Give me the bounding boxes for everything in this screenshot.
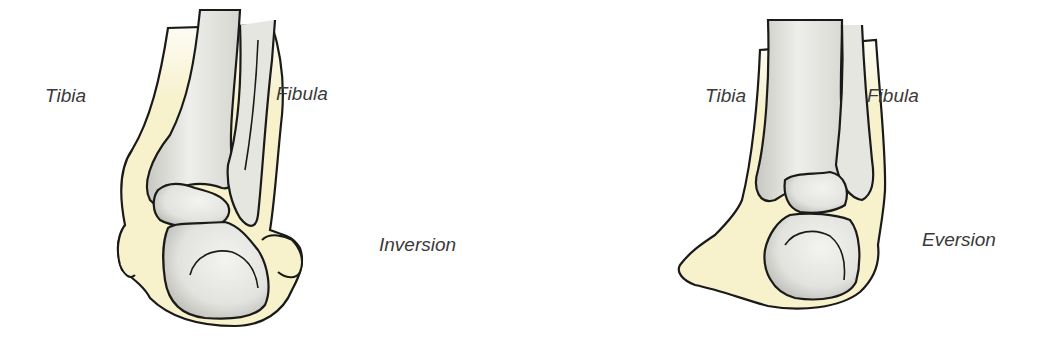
ankle-diagram xyxy=(0,0,1057,346)
inversion-ankle-illustration xyxy=(118,10,302,326)
tibia-label-inversion: Tibia xyxy=(45,86,86,105)
fibula-label-inversion: Fibula xyxy=(276,84,328,103)
eversion-label: Eversion xyxy=(922,230,996,249)
talus-bone xyxy=(785,172,847,213)
eversion-ankle-illustration xyxy=(679,20,885,309)
calcaneus-bone xyxy=(764,214,859,300)
inversion-label: Inversion xyxy=(379,235,456,254)
fibula-label-eversion: Fibula xyxy=(867,86,919,105)
tibia-label-eversion: Tibia xyxy=(705,86,746,105)
